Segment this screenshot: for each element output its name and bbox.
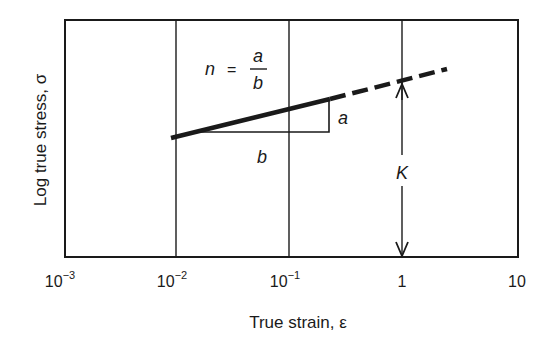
slope-num: a [253,46,263,66]
x-tick-1e-1: 10−1 [270,269,300,290]
x-tick-10: 10 [508,273,526,290]
intercept-k-label: K [396,163,409,183]
flow-curve-dashed [330,69,447,99]
x-axis-label: True strain, ε [249,313,347,332]
triangle-rise-label: a [338,108,348,128]
x-tick-1e-2: 10−2 [157,269,187,290]
y-axis-label: Log true stress, σ [31,73,50,206]
x-tick-1: 1 [398,273,407,290]
x-tick-1e-3: 10−3 [45,269,75,290]
plot-frame [65,20,518,257]
slope-n: n [205,59,215,79]
triangle-run-label: b [257,147,267,167]
slope-den: b [253,73,263,93]
flow-curve-diagram: n = a b a b K 10−3 10−2 10−1 1 10 True s… [0,0,551,343]
slope-eq: = [227,61,236,78]
